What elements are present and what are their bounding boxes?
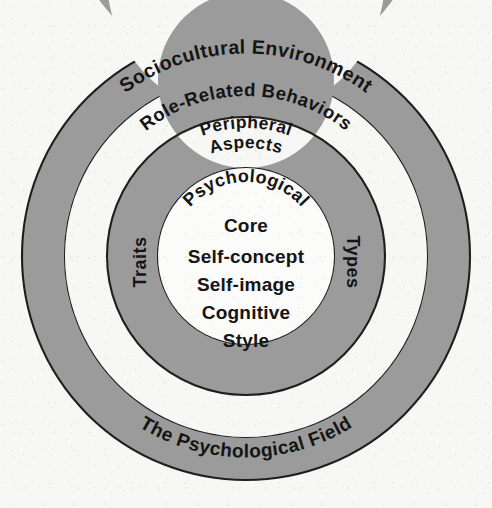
diagram-page: Sociocultural Environment The Psychologi… — [0, 0, 492, 508]
label-self-image: Self-image — [197, 274, 295, 295]
label-traits: Traits — [130, 236, 150, 287]
label-style: Style — [223, 330, 269, 351]
label-core: Core — [224, 215, 268, 236]
concentric-circles-diagram: Sociocultural Environment The Psychologi… — [0, 0, 492, 508]
label-self-concept: Self-concept — [188, 246, 305, 267]
label-cognitive: Cognitive — [202, 302, 290, 323]
label-types: Types — [343, 235, 363, 288]
